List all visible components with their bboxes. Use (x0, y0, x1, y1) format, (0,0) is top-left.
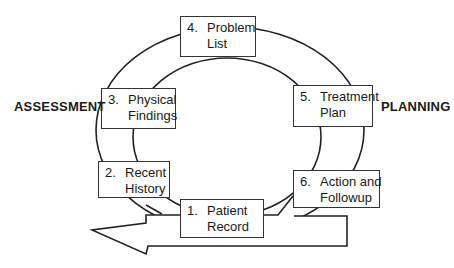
step-4-problem-list: 4.Problem List (180, 16, 256, 57)
assessment-label: ASSESSMENT (14, 99, 106, 114)
step-number: 5. (300, 89, 320, 105)
step-number: 3. (108, 92, 128, 108)
step-number: 6. (300, 174, 320, 190)
step-number: 4. (187, 20, 207, 36)
step-3-physical-findings: 3.Physical Findings (101, 88, 176, 129)
step-2-recent-history: 2.Recent History (98, 161, 170, 198)
step-number: 1. (187, 203, 207, 219)
step-number: 2. (105, 165, 125, 181)
step-1-patient-record: 1.Patient Record (180, 199, 264, 238)
step-5-treatment-plan: 5.Treatment Plan (293, 85, 373, 127)
planning-label: PLANNING (381, 99, 451, 114)
step-6-action-and-followup: 6.Action and Followup (293, 170, 380, 208)
